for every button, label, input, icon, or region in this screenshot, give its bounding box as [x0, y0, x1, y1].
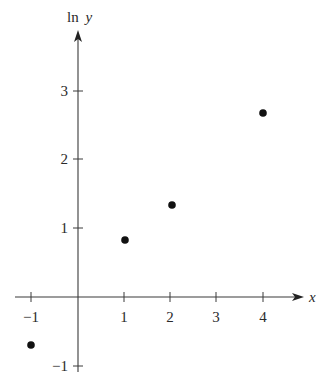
x-tick-label: 4 [259, 309, 267, 325]
x-tick-label: 1 [120, 309, 128, 325]
data-point [27, 341, 35, 349]
x-tick-label: 2 [166, 309, 174, 325]
x-tick-label: −1 [23, 309, 39, 325]
x-tick-label: 3 [212, 309, 220, 325]
y-tick-label: 1 [61, 220, 69, 236]
y-axis-label: ln y [67, 9, 92, 25]
y-tick-label: 2 [61, 151, 69, 167]
data-point [259, 109, 267, 117]
y-tick-label: −1 [52, 358, 68, 374]
scatter-chart: −1 1 2 3 4 3 2 1 −1 x ln y [0, 0, 320, 374]
y-tick-label: 3 [61, 83, 69, 99]
y-axis-label-ln: ln [67, 9, 79, 25]
y-axis-label-var: y [83, 9, 92, 25]
data-point [168, 201, 176, 209]
x-axis-label: x [308, 289, 316, 305]
data-point [121, 236, 129, 244]
